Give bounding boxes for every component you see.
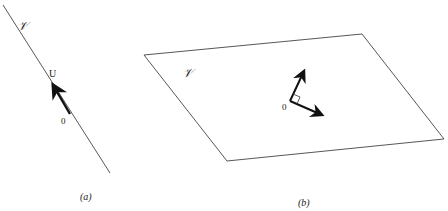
panel-b: 𝒱 0 (b) bbox=[144, 34, 444, 209]
origin-label-b: 0 bbox=[282, 102, 287, 112]
vector-u-label: U bbox=[49, 68, 57, 79]
caption-a: (a) bbox=[80, 191, 92, 203]
figure-canvas: 𝒱 U 0 (a) 𝒱 0 (b) bbox=[0, 0, 448, 211]
vector-u-arrow bbox=[53, 85, 70, 114]
vector-2-arrow bbox=[290, 101, 322, 115]
subspace-plane bbox=[144, 34, 444, 161]
panel-a: 𝒱 U 0 (a) bbox=[3, 5, 110, 203]
vector-1-arrow bbox=[290, 71, 304, 101]
subspace-label-b: 𝒱 bbox=[183, 66, 197, 80]
origin-label-a: 0 bbox=[61, 116, 66, 126]
subspace-label-a: 𝒱 bbox=[18, 19, 32, 33]
caption-b: (b) bbox=[298, 197, 310, 209]
